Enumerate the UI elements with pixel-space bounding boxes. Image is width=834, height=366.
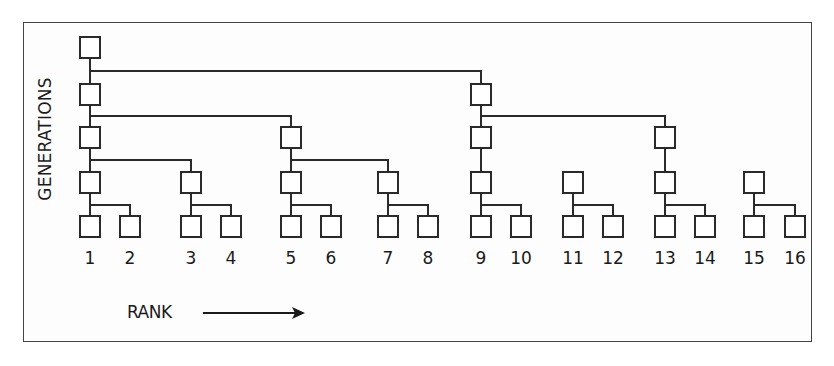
node-box bbox=[378, 172, 398, 193]
node-box bbox=[321, 216, 341, 237]
node-box bbox=[80, 84, 100, 105]
tree-branch-edge bbox=[291, 160, 388, 172]
rank-number: 2 bbox=[125, 248, 136, 268]
node-box bbox=[471, 216, 491, 237]
node-box bbox=[80, 37, 100, 58]
node-box bbox=[471, 127, 491, 148]
tree-branch-edge bbox=[481, 205, 521, 216]
node-box bbox=[563, 172, 583, 193]
node-box bbox=[181, 172, 201, 193]
node-box bbox=[80, 172, 100, 193]
rank-number: 5 bbox=[286, 248, 297, 268]
tree-branch-edge bbox=[191, 205, 231, 216]
tree-branch-edge bbox=[665, 205, 705, 216]
node-box bbox=[80, 216, 100, 237]
rank-number: 9 bbox=[476, 248, 487, 268]
tree-branch-edge bbox=[90, 116, 291, 127]
rank-number: 11 bbox=[562, 248, 584, 268]
node-box bbox=[785, 216, 805, 237]
tree-branch-edge bbox=[754, 205, 795, 216]
rank-number: 13 bbox=[654, 248, 676, 268]
rank-number: 16 bbox=[784, 248, 806, 268]
tree-branch-edge bbox=[90, 71, 481, 84]
node-box bbox=[80, 127, 100, 148]
node-box bbox=[655, 216, 675, 237]
rank-number: 12 bbox=[602, 248, 624, 268]
node-box bbox=[378, 216, 398, 237]
tree-branch-edge bbox=[291, 205, 331, 216]
rank-number: 6 bbox=[326, 248, 337, 268]
node-box bbox=[281, 127, 301, 148]
rank-labels: 12345678910111213141516 bbox=[85, 248, 806, 268]
node-box bbox=[655, 172, 675, 193]
tree-branch-edge bbox=[573, 205, 613, 216]
node-box bbox=[471, 84, 491, 105]
rank-number: 3 bbox=[186, 248, 197, 268]
rank-number: 15 bbox=[743, 248, 765, 268]
node-box bbox=[695, 216, 715, 237]
rank-number: 1 bbox=[85, 248, 96, 268]
tree-branch-edge bbox=[90, 205, 130, 216]
tree-branch-edge bbox=[90, 160, 191, 172]
right-arrow-icon bbox=[203, 307, 305, 319]
node-box bbox=[181, 216, 201, 237]
node-box bbox=[281, 172, 301, 193]
node-box bbox=[281, 216, 301, 237]
rank-number: 8 bbox=[423, 248, 434, 268]
generation-tree: 12345678910111213141516 bbox=[0, 0, 834, 366]
node-box bbox=[418, 216, 438, 237]
tree-branch-edge bbox=[481, 116, 665, 127]
node-box bbox=[744, 172, 764, 193]
node-box bbox=[511, 216, 531, 237]
rank-number: 14 bbox=[694, 248, 716, 268]
node-box bbox=[221, 216, 241, 237]
tree-nodes bbox=[80, 37, 805, 237]
tree-branch-edge bbox=[388, 205, 428, 216]
node-box bbox=[744, 216, 764, 237]
node-box bbox=[603, 216, 623, 237]
node-box bbox=[563, 216, 583, 237]
node-box bbox=[120, 216, 140, 237]
rank-number: 7 bbox=[383, 248, 394, 268]
rank-number: 4 bbox=[226, 248, 237, 268]
node-box bbox=[471, 172, 491, 193]
rank-number: 10 bbox=[510, 248, 532, 268]
node-box bbox=[655, 127, 675, 148]
